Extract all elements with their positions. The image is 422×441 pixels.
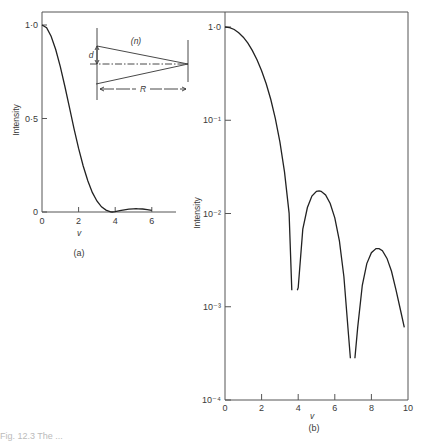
panel-b-x-axis-title: v — [310, 411, 315, 421]
curve-second-side-lobe — [355, 249, 404, 359]
y-tick-label: 0 — [33, 207, 38, 217]
y-tick-label: 1·0 — [208, 22, 221, 32]
panel-b: 1·010⁻¹10⁻²10⁻³10⁻⁴ 0246810 Intensity v … — [192, 12, 413, 433]
lower-ray — [96, 64, 188, 84]
inset-diagram: d (n) R — [89, 28, 188, 100]
curve-main-lobe — [225, 27, 292, 290]
distance-label: R — [140, 84, 146, 94]
curve-first-side-lobe — [297, 191, 350, 358]
panel-b-y-axis-title: Intensity — [192, 196, 202, 228]
x-tick-label: 10 — [403, 403, 413, 413]
panel-b-y-ticks: 1·010⁻¹10⁻²10⁻³10⁻⁴ — [202, 22, 231, 405]
x-tick-label: 6 — [332, 403, 337, 413]
medium-label: (n) — [131, 36, 142, 46]
y-tick-label: 10⁻² — [203, 209, 221, 219]
panel-a-y-ticks: 00·51·0 — [25, 20, 47, 217]
y-tick-label: 10⁻³ — [203, 302, 221, 312]
x-tick-label: 2 — [76, 216, 81, 226]
x-tick-label: 2 — [259, 403, 264, 413]
y-tick-label: 0·5 — [25, 114, 38, 124]
y-tick-label: 10⁻⁴ — [202, 395, 221, 405]
x-tick-label: 0 — [222, 403, 227, 413]
x-tick-label: 0 — [39, 216, 44, 226]
y-tick-label: 1·0 — [25, 20, 38, 30]
panel-a-label: (a) — [74, 248, 85, 258]
panel-a-y-axis-title: Intensity — [11, 103, 21, 135]
upper-ray — [97, 46, 188, 64]
panel-b-intensity-curves — [225, 27, 404, 358]
figure-caption: Fig. 12.3 The ... — [0, 431, 422, 441]
panel-b-x-ticks: 0246810 — [222, 394, 413, 413]
y-tick-label: 10⁻¹ — [203, 115, 221, 125]
x-tick-label: 6 — [149, 216, 154, 226]
panel-a-x-axis-title: v — [77, 228, 82, 238]
x-tick-label: 8 — [369, 403, 374, 413]
panel-a-x-ticks: 0246 — [39, 207, 154, 226]
figure: 00·51·0 0246 Intensity v (a) d (n) R — [0, 0, 422, 441]
panel-a: 00·51·0 0246 Intensity v (a) d (n) R — [11, 12, 188, 258]
x-tick-label: 4 — [296, 403, 301, 413]
x-tick-label: 4 — [113, 216, 118, 226]
aperture-label: d — [89, 50, 94, 60]
